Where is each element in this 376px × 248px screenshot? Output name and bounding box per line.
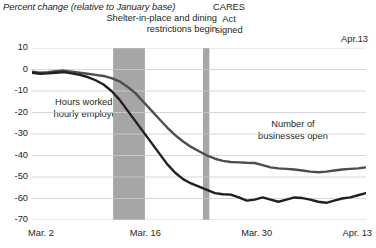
data-lines	[32, 71, 366, 203]
chart-title: Percent change (relative to January base…	[3, 1, 175, 12]
y-axis-tick-label: -40	[2, 150, 28, 160]
chart-svg	[32, 48, 366, 220]
plot-area	[32, 48, 366, 220]
cares-band-annotation-line2: Act	[209, 14, 249, 26]
y-axis-tick-label: 0	[2, 64, 28, 74]
shelter-band-annotation: Shelter-in-place and dining restrictions…	[77, 13, 217, 36]
cares-band-annotation-line3: signed	[209, 25, 249, 37]
y-axis-tick-label: -50	[2, 171, 28, 181]
x-axis-tick-label: Mar. 2	[28, 228, 72, 238]
chart-container: Percent change (relative to January base…	[0, 0, 376, 248]
y-axis-tick-label: -20	[2, 107, 28, 117]
series-line	[32, 72, 366, 203]
x-axis-tick-label: Apr. 13	[328, 228, 372, 238]
cares-band-annotation: CARES Act signed	[209, 2, 249, 37]
y-axis-tick-label: -10	[2, 85, 28, 95]
shelter-band-annotation-line2: restrictions begin	[77, 24, 217, 35]
x-axis-tick-label: Mar. 16	[123, 228, 167, 238]
y-axis-tick-label: -30	[2, 128, 28, 138]
apr13-top-label: Apr.13	[341, 34, 368, 45]
y-axis-tick-label: -60	[2, 193, 28, 203]
series-line	[32, 71, 366, 173]
shelter-band-annotation-line1: Shelter-in-place and dining	[77, 13, 217, 24]
cares-band-annotation-line1: CARES	[209, 2, 249, 14]
x-axis-tick-label: Mar. 30	[235, 228, 279, 238]
y-axis-tick-label: -70	[2, 214, 28, 224]
y-axis-tick-label: 10	[2, 42, 28, 52]
